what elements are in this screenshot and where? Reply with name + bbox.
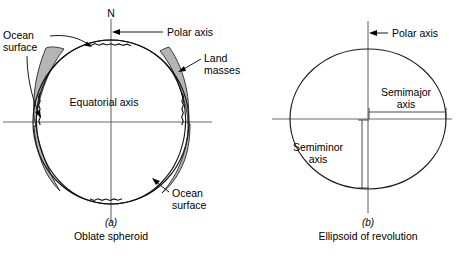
polar-axis-arrowhead-a bbox=[112, 29, 120, 35]
polar-axis-label-b: Polar axis bbox=[392, 27, 438, 39]
semimajor-axis-label-line1: Semimajor bbox=[381, 86, 432, 98]
semiminor-axis-label-line2: axis bbox=[309, 153, 328, 165]
semiminor-axis-label-line1: Semiminor bbox=[293, 141, 344, 153]
semimajor-axis-label-line2: axis bbox=[397, 98, 416, 110]
land-mass-shading-lower-right bbox=[162, 124, 190, 193]
earth-shape-diagram: N Polar axis Equatorial axis Ocean surfa… bbox=[0, 0, 460, 256]
panel-a-caption-title: Oblate spheroid bbox=[74, 230, 148, 242]
geoid-texture-right bbox=[182, 93, 184, 125]
north-label: N bbox=[107, 7, 115, 19]
land-mass-shading-right bbox=[160, 47, 189, 124]
panel-a-caption-letter: (a) bbox=[105, 217, 117, 228]
polar-axis-arrowhead-b bbox=[369, 30, 377, 36]
ocean-surface-leader-1a bbox=[50, 35, 89, 45]
ocean-surface-label-1-line1: Ocean bbox=[3, 29, 34, 41]
ocean-surface-label-2-line1: Ocean bbox=[172, 187, 203, 199]
geoid-texture-bottom bbox=[90, 199, 122, 201]
panel-b-caption-title: Ellipsoid of revolution bbox=[318, 230, 417, 242]
equatorial-axis-label: Equatorial axis bbox=[70, 96, 139, 108]
semiminor-axis-bracket bbox=[358, 120, 369, 188]
ocean-surface-label-2-line2: surface bbox=[172, 199, 207, 211]
land-masses-label-line1: Land bbox=[204, 52, 228, 64]
panel-a-group: N Polar axis Equatorial axis Ocean surfa… bbox=[3, 7, 240, 242]
panel-b-group: Polar axis Semimajor axis Semiminor axis… bbox=[272, 21, 452, 242]
figure-container: N Polar axis Equatorial axis Ocean surfa… bbox=[0, 0, 460, 256]
land-masses-label-line2: masses bbox=[204, 64, 240, 76]
ocean-surface-label-1-line2: surface bbox=[3, 41, 38, 53]
geoid-texture-top bbox=[88, 44, 131, 46]
polar-axis-label-a: Polar axis bbox=[167, 26, 213, 38]
panel-b-caption-letter: (b) bbox=[362, 217, 374, 228]
